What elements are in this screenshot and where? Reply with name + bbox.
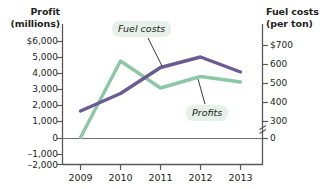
x-axis-tick-label: 2010 — [104, 173, 138, 182]
chart-container: Profit (millions) Fuel costs (per ton) $… — [0, 0, 328, 189]
right-axis-tick-label: 500 — [270, 79, 287, 88]
x-axis-ticks — [81, 165, 241, 170]
right-axis-tick-label: 0 — [270, 134, 276, 143]
right-axis-title: Fuel costs (per ton) — [266, 6, 319, 29]
left-axis-tick-label: 5,000 — [4, 53, 58, 62]
right-axis-tick-label: 300 — [270, 117, 287, 126]
left-axis-tick-label: $6,000 — [4, 37, 58, 46]
left-axis-tick-label: 4,000 — [4, 69, 58, 78]
right-axis-tick-label: 600 — [270, 60, 287, 69]
left-axis-title-line2: (millions) — [8, 18, 60, 30]
left-axis-tick-label: 2,000 — [4, 101, 58, 110]
right-axis-ticks — [263, 46, 269, 139]
left-axis-title: Profit (millions) — [8, 6, 60, 29]
right-axis-title-line2: (per ton) — [266, 18, 319, 30]
series-callout-fuel-costs: Fuel costs — [112, 21, 171, 37]
left-axis-tick-label: 0 — [4, 134, 58, 143]
callout-leader-fuel-costs — [148, 38, 162, 66]
right-axis-tick-label: $700 — [270, 41, 293, 50]
x-axis-tick-label: 2011 — [144, 173, 178, 182]
left-axis-tick-label: 3,000 — [4, 85, 58, 94]
left-axis-title-line1: Profit — [8, 6, 60, 18]
callout-leader-profits — [198, 79, 205, 104]
x-axis-tick-label: 2012 — [184, 173, 218, 182]
x-axis-tick-label: 2009 — [64, 173, 98, 182]
x-axis-tick-label: 2013 — [224, 173, 258, 182]
left-axis-tick-label: 1,000 — [4, 117, 58, 126]
left-axis-tick-label: –1,000 — [4, 150, 58, 159]
series-callout-profits: Profits — [186, 105, 228, 121]
series-line-fuel-costs — [81, 57, 241, 111]
right-axis-tick-label: 400 — [270, 98, 287, 107]
right-axis-title-line1: Fuel costs — [266, 6, 319, 18]
left-axis-tick-label: –2,000 — [4, 161, 58, 170]
